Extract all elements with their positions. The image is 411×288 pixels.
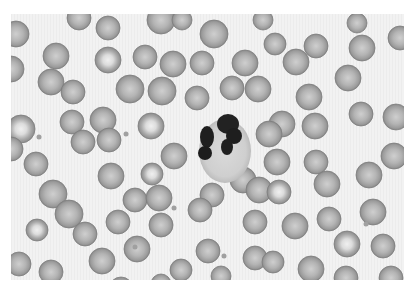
red-blood-cell <box>356 162 382 188</box>
red-blood-cell <box>148 77 176 105</box>
red-blood-cell <box>220 76 244 100</box>
red-blood-cell <box>264 149 290 175</box>
red-blood-cell <box>349 35 375 61</box>
red-blood-cell <box>96 16 120 40</box>
red-blood-cell <box>196 239 220 263</box>
red-blood-cell <box>283 49 309 75</box>
nucleus-lobe <box>200 126 214 148</box>
platelet <box>124 132 129 137</box>
red-blood-cell <box>304 34 328 58</box>
red-blood-cell <box>73 222 97 246</box>
red-blood-cell <box>24 152 48 176</box>
blood-smear-micrograph <box>11 14 404 280</box>
red-blood-cell <box>314 171 340 197</box>
red-blood-cell <box>264 33 286 55</box>
red-blood-cell <box>253 14 273 30</box>
red-blood-cell <box>200 20 228 48</box>
red-blood-cell <box>160 51 186 77</box>
red-blood-cell <box>26 219 48 241</box>
red-blood-cell <box>317 207 341 231</box>
red-blood-cell <box>170 259 192 280</box>
red-blood-cell <box>124 236 150 262</box>
red-blood-cell <box>161 143 187 169</box>
red-blood-cell <box>335 65 361 91</box>
red-blood-cell <box>133 45 157 69</box>
red-blood-cell <box>302 113 328 139</box>
red-blood-cell <box>243 210 267 234</box>
red-blood-cell <box>97 128 121 152</box>
red-blood-cell <box>256 121 282 147</box>
red-blood-cell <box>172 14 192 30</box>
red-blood-cell <box>371 234 395 258</box>
red-blood-cell <box>232 50 258 76</box>
red-blood-cell <box>185 86 209 110</box>
red-blood-cell <box>267 180 291 204</box>
red-blood-cell <box>188 198 212 222</box>
red-blood-cell <box>146 185 172 211</box>
red-blood-cell <box>245 76 271 102</box>
platelet <box>222 254 227 259</box>
red-blood-cell <box>116 75 144 103</box>
red-blood-cell <box>138 113 164 139</box>
red-blood-cell <box>38 69 64 95</box>
red-blood-cell <box>381 143 404 169</box>
red-blood-cell <box>95 47 121 73</box>
red-blood-cell <box>39 260 63 280</box>
red-blood-cell <box>262 251 284 273</box>
platelet <box>172 206 177 211</box>
red-blood-cell <box>11 252 31 276</box>
red-blood-cell <box>190 51 214 75</box>
red-blood-cell <box>296 84 322 110</box>
red-blood-cell <box>71 130 95 154</box>
red-blood-cell <box>61 80 85 104</box>
red-blood-cell <box>141 163 163 185</box>
red-blood-cell <box>347 14 367 33</box>
red-blood-cell <box>304 150 328 174</box>
red-blood-cell <box>298 256 324 280</box>
smear-canvas <box>11 14 404 280</box>
red-blood-cell <box>282 213 308 239</box>
red-blood-cell <box>106 210 130 234</box>
red-blood-cell <box>360 199 386 225</box>
red-blood-cell <box>43 43 69 69</box>
red-blood-cell <box>98 163 124 189</box>
platelet <box>133 245 138 250</box>
red-blood-cell <box>349 102 373 126</box>
nucleus-lobe <box>198 146 212 160</box>
red-blood-cell <box>149 213 173 237</box>
red-blood-cell <box>89 248 115 274</box>
platelet <box>364 222 369 227</box>
red-blood-cell <box>334 231 360 257</box>
nucleus-lobe <box>221 139 233 155</box>
platelet <box>37 135 42 140</box>
red-blood-cell <box>123 188 147 212</box>
